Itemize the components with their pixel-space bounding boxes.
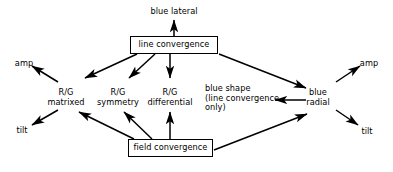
node-rg-differential: R/G differential	[147, 88, 192, 107]
edge-line-convergence-to-rg-symmetry	[129, 54, 155, 78]
node-amp-right: amp	[360, 59, 378, 69]
node-blue-radial: blue radial	[306, 88, 329, 107]
edge-rg-matrixed-to-tilt-left	[32, 110, 58, 125]
node-tilt-right: tilt	[361, 127, 372, 137]
node-field-convergence-label: field convergence	[134, 143, 208, 153]
edge-blue-radial-to-amp-right	[336, 66, 360, 82]
edge-field-convergence-to-rg-symmetry	[124, 112, 152, 139]
node-tilt-left: tilt	[16, 126, 27, 136]
edge-rg-matrixed-to-amp-left	[32, 66, 58, 82]
edge-line-convergence-to-rg-matrixed	[85, 54, 137, 78]
node-rg-matrixed: R/G matrixed	[47, 88, 84, 107]
edge-blue-radial-to-tilt-right	[336, 110, 358, 125]
edge-field-convergence-to-rg-matrixed	[79, 112, 134, 139]
node-blue-lateral: blue lateral	[150, 7, 197, 17]
node-blue-shape: blue shape (line convergence only)	[205, 84, 279, 113]
node-line-convergence-label: line convergence	[139, 40, 210, 50]
node-amp-left: amp	[15, 59, 33, 69]
node-rg-symmetry: R/G symmetry	[97, 88, 139, 107]
node-field-convergence[interactable]: field convergence	[128, 139, 213, 157]
node-line-convergence[interactable]: line convergence	[130, 36, 218, 54]
edge-field-convergence-to-blue-radial	[214, 114, 307, 150]
diagram-canvas: line convergence field convergence blue …	[0, 0, 393, 172]
